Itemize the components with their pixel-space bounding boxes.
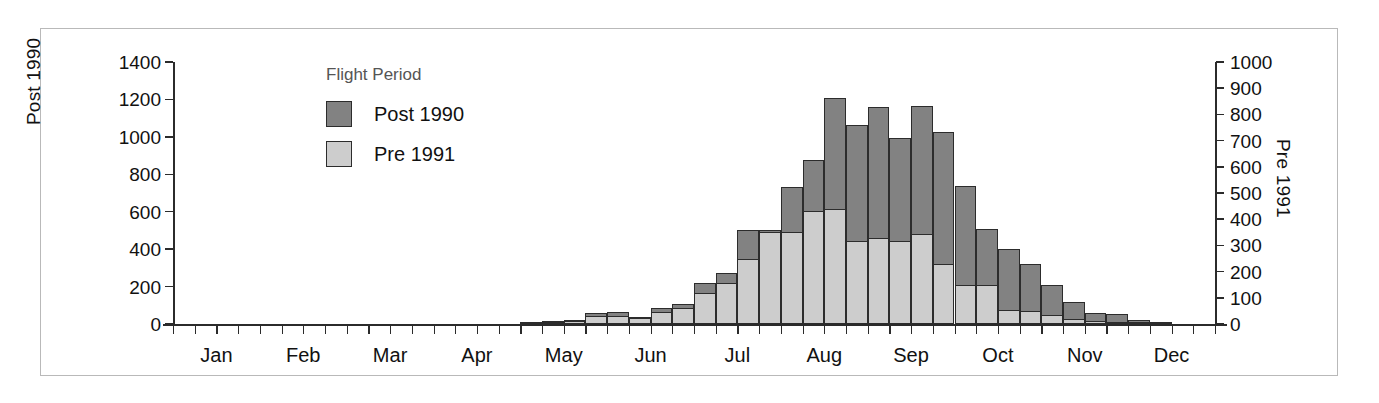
x-axis-tick <box>824 325 825 334</box>
x-axis-tick <box>325 325 326 334</box>
left-axis-tick <box>165 61 173 63</box>
right-axis-tick-label: 0 <box>1230 315 1241 334</box>
x-axis-month-label: Dec <box>1154 344 1190 367</box>
x-axis-tick <box>911 325 912 334</box>
x-axis-tick <box>499 325 500 334</box>
x-axis-month-label: Apr <box>461 344 492 367</box>
x-axis-tick <box>477 325 478 334</box>
x-axis-month-label: Mar <box>373 344 407 367</box>
x-axis-tick <box>390 325 391 334</box>
x-axis-tick <box>1150 325 1151 334</box>
right-axis-tick-label: 100 <box>1230 289 1262 308</box>
right-axis-tick-label: 200 <box>1230 263 1262 282</box>
left-axis-tick <box>165 286 173 288</box>
bar-pre-1991 <box>846 241 868 324</box>
legend-title: Flight Period <box>326 65 576 85</box>
bar-pre-1991 <box>1150 322 1172 324</box>
right-axis-title: Pre 1991 <box>1272 139 1294 218</box>
x-axis-month-label: May <box>545 344 583 367</box>
legend-item-pre-1991[interactable]: Pre 1991 <box>326 141 576 167</box>
bar-pre-1991 <box>1063 319 1085 324</box>
bar-pre-1991 <box>998 310 1020 324</box>
left-axis-tick <box>165 323 173 325</box>
bar-pre-1991 <box>520 322 542 324</box>
right-axis-tick <box>1216 61 1224 63</box>
x-axis-tick <box>216 325 217 334</box>
x-axis-tick <box>368 325 369 334</box>
bar-pre-1991 <box>803 211 825 324</box>
right-axis-tick <box>1216 245 1224 247</box>
right-axis-tick <box>1216 166 1224 168</box>
bar-pre-1991 <box>1128 322 1150 324</box>
bar-pre-1991 <box>759 232 781 324</box>
left-axis-title: Post 1990 <box>23 38 45 125</box>
legend: Flight Period Post 1990 Pre 1991 <box>326 65 576 181</box>
left-axis-tick-label: 400 <box>129 240 161 259</box>
x-axis-tick <box>629 325 630 334</box>
bar-pre-1991 <box>889 241 911 324</box>
right-axis-tick-label: 300 <box>1230 236 1262 255</box>
x-axis-tick <box>694 325 695 334</box>
bar-pre-1991 <box>1106 322 1128 324</box>
left-axis-tick-label: 600 <box>129 203 161 222</box>
x-axis-tick <box>238 325 239 334</box>
legend-swatch-post-1990-icon <box>326 101 352 127</box>
x-axis-tick <box>1128 325 1129 334</box>
left-axis-tick-label: 1400 <box>119 53 161 72</box>
x-axis-month-label: Jul <box>725 344 751 367</box>
right-axis-tick <box>1216 87 1224 89</box>
legend-swatch-pre-1991-icon <box>326 141 352 167</box>
right-axis-tick-label: 500 <box>1230 184 1262 203</box>
x-axis-tick <box>434 325 435 334</box>
x-axis-tick <box>1215 325 1216 334</box>
left-axis-tick-label: 1000 <box>119 128 161 147</box>
x-axis-tick <box>803 325 804 334</box>
bar-pre-1991 <box>1085 321 1107 324</box>
left-axis-tick <box>165 99 173 101</box>
x-axis-tick <box>759 325 760 334</box>
x-axis-tick <box>672 325 673 334</box>
x-axis-tick <box>347 325 348 334</box>
right-axis-tick <box>1216 218 1224 220</box>
right-axis-tick-label: 1000 <box>1230 53 1272 72</box>
right-axis-tick-label: 800 <box>1230 105 1262 124</box>
bar-pre-1991 <box>629 318 651 324</box>
x-axis-tick <box>955 325 956 334</box>
left-axis-tick <box>165 211 173 213</box>
x-axis-month-label: Aug <box>806 344 842 367</box>
x-axis-tick <box>260 325 261 334</box>
right-axis-tick-label: 900 <box>1230 79 1262 98</box>
bar-pre-1991 <box>564 321 586 324</box>
x-axis-month-label: Sep <box>893 344 929 367</box>
x-axis-tick <box>889 325 890 334</box>
x-axis-tick <box>1172 325 1173 334</box>
bar-pre-1991 <box>607 316 629 324</box>
x-axis-tick <box>564 325 565 334</box>
bar-pre-1991 <box>672 308 694 324</box>
x-axis-tick <box>542 325 543 334</box>
x-axis-tick <box>1063 325 1064 334</box>
x-axis-month-label: Nov <box>1067 344 1103 367</box>
x-axis-month-label: Oct <box>982 344 1013 367</box>
right-axis-tick-label: 400 <box>1230 210 1262 229</box>
legend-label-post-1990: Post 1990 <box>374 103 464 126</box>
x-axis-tick <box>998 325 999 334</box>
left-axis-tick-label: 1200 <box>119 90 161 109</box>
right-axis-tick <box>1216 192 1224 194</box>
x-axis-tick <box>585 325 586 334</box>
legend-item-post-1990[interactable]: Post 1990 <box>326 101 576 127</box>
bar-pre-1991 <box>868 238 890 324</box>
x-axis-tick <box>716 325 717 334</box>
chart-figure: Post 1990 Pre 1991 020040060080010001200… <box>40 28 1338 376</box>
x-axis-tick <box>781 325 782 334</box>
x-axis-tick <box>607 325 608 334</box>
x-axis-tick <box>1020 325 1021 334</box>
right-axis-tick <box>1216 323 1224 325</box>
bar-pre-1991 <box>781 232 803 324</box>
right-axis-tick <box>1216 297 1224 299</box>
left-axis-line <box>173 62 175 324</box>
left-axis-tick <box>165 174 173 176</box>
bar-pre-1991 <box>911 234 933 324</box>
right-axis-tick <box>1216 271 1224 273</box>
left-axis-tick <box>165 248 173 250</box>
